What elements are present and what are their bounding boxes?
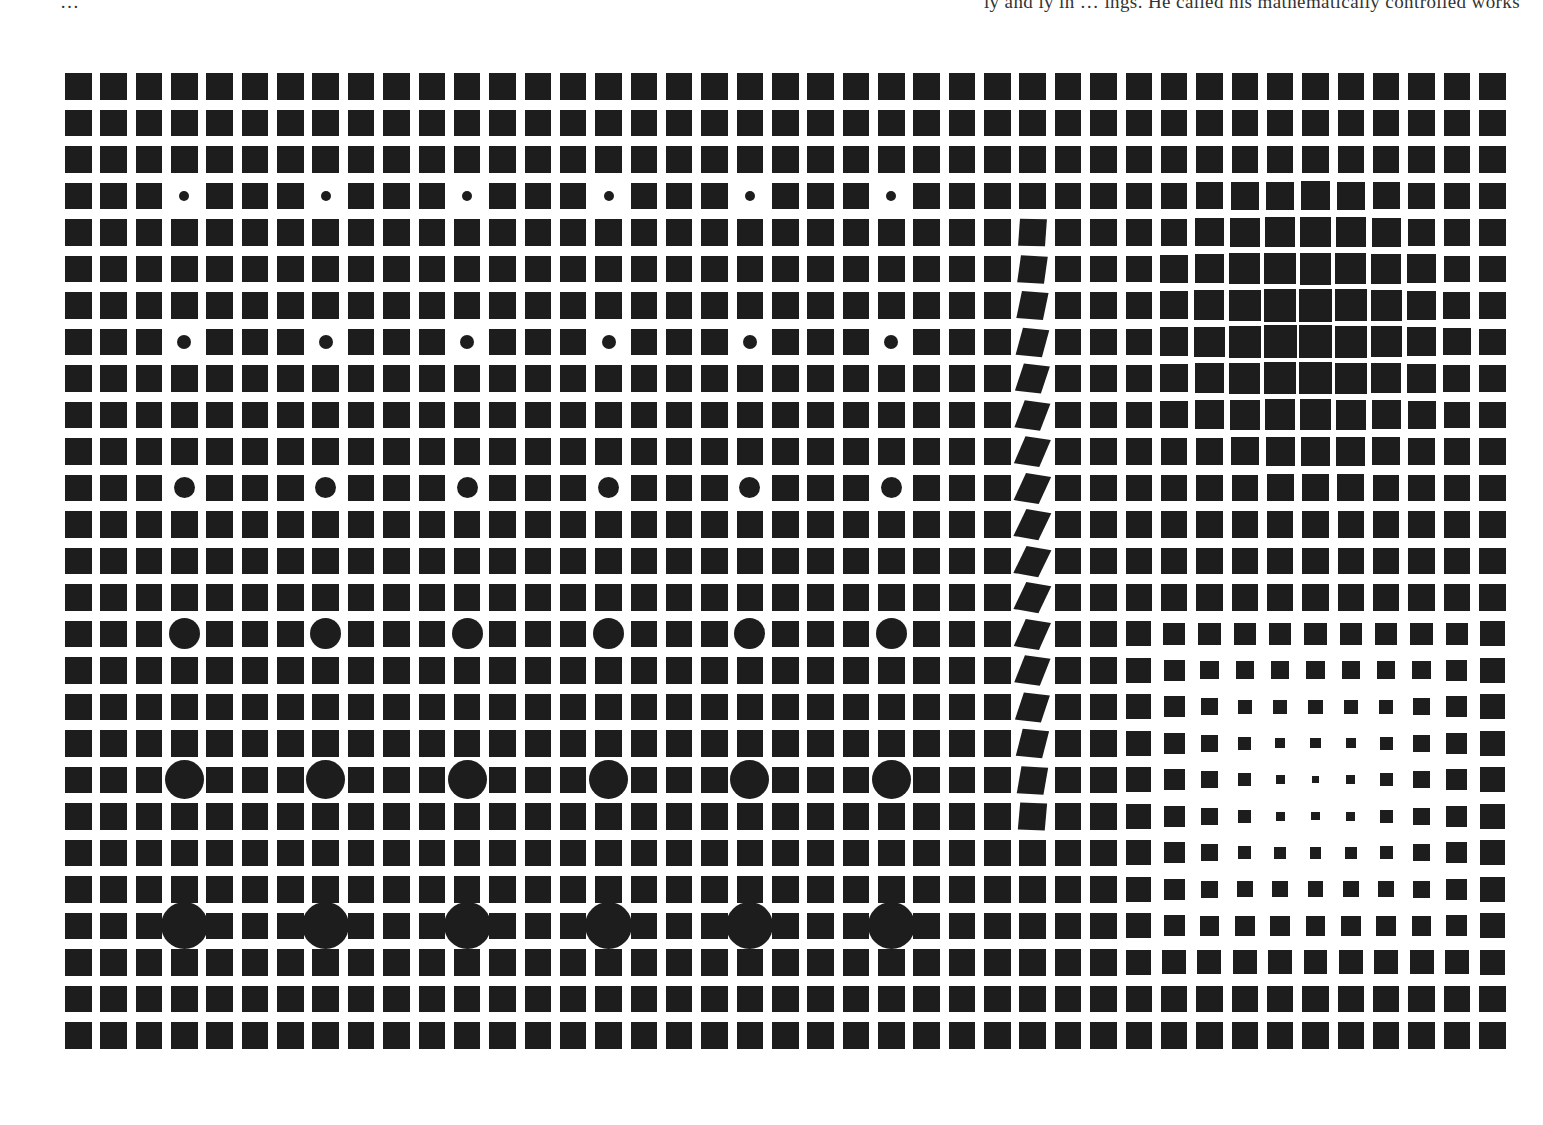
grid-square [1275, 738, 1285, 748]
grid-square [65, 986, 92, 1013]
grid-square [348, 840, 375, 867]
grid-square [65, 110, 92, 137]
grid-square [737, 803, 764, 830]
grid-square [1268, 950, 1292, 974]
grid-square [1164, 879, 1185, 900]
grid-square [100, 475, 127, 502]
grid-square [1126, 475, 1153, 502]
grid-square [171, 840, 198, 867]
grid-square [772, 292, 799, 319]
grid-square [65, 694, 92, 721]
grid-square [913, 876, 940, 903]
grid-square [489, 365, 516, 392]
grid-square [1195, 218, 1223, 246]
grid-square [489, 730, 516, 757]
grid-square [878, 986, 905, 1013]
grid-square [312, 840, 339, 867]
grid-square [348, 876, 375, 903]
grid-square [1090, 657, 1117, 684]
grid-square [984, 256, 1011, 283]
grid-square [1266, 182, 1294, 210]
grid-square [560, 110, 587, 137]
grid-square [913, 840, 940, 867]
grid-square [383, 803, 410, 830]
grid-square [1479, 183, 1506, 210]
grid-square [1408, 401, 1436, 429]
grid-square [595, 840, 622, 867]
grid-square [242, 219, 269, 246]
grid-circle [315, 477, 336, 498]
grid-square [737, 110, 764, 137]
grid-square [1264, 325, 1297, 358]
grid-square [843, 986, 870, 1013]
grid-square [419, 256, 446, 283]
grid-square [1161, 110, 1188, 137]
grid-square [1413, 881, 1430, 898]
grid-square [100, 438, 127, 465]
grid-circle [165, 760, 204, 799]
grid-square [631, 365, 658, 392]
grid-square [206, 402, 233, 429]
grid-square [772, 219, 799, 246]
grid-square [807, 329, 834, 356]
grid-square [100, 511, 127, 538]
grid-square [171, 548, 198, 575]
grid-square [206, 292, 233, 319]
grid-square [348, 146, 375, 173]
grid-square [1196, 73, 1223, 100]
grid-square [383, 730, 410, 757]
grid-square [136, 365, 163, 392]
grid-square [631, 767, 658, 794]
grid-square [772, 913, 799, 940]
grid-square [383, 949, 410, 976]
grid-square [807, 402, 834, 429]
grid-square [595, 292, 622, 319]
grid-square [312, 548, 339, 575]
grid-square [913, 803, 940, 830]
grid-square [525, 730, 552, 757]
grid-circle [457, 477, 478, 498]
grid-square [242, 256, 269, 283]
grid-square [1055, 730, 1082, 757]
grid-square [525, 986, 552, 1013]
grid-square [348, 767, 375, 794]
grid-square [949, 657, 976, 684]
grid-square [1126, 767, 1151, 792]
grid-square [1346, 812, 1355, 821]
grid-square [1126, 146, 1153, 173]
grid-square [843, 256, 870, 283]
grid-square [1055, 913, 1082, 940]
grid-square [383, 621, 410, 648]
grid-square [913, 548, 940, 575]
grid-square [383, 219, 410, 246]
grid-square [1336, 437, 1365, 466]
grid-square [525, 365, 552, 392]
grid-square [1338, 986, 1365, 1013]
grid-square [1376, 916, 1396, 936]
grid-square [560, 292, 587, 319]
grid-square [1378, 881, 1394, 897]
grid-square [489, 219, 516, 246]
grid-square [1479, 584, 1506, 611]
grid-square [1161, 548, 1188, 575]
grid-square [312, 73, 339, 100]
grid-square [1090, 767, 1117, 794]
grid-square [489, 949, 516, 976]
grid-square [949, 292, 976, 319]
grid-square [878, 402, 905, 429]
grid-square [595, 365, 622, 392]
grid-square [843, 803, 870, 830]
grid-square [100, 548, 127, 575]
grid-skewed-square [1015, 655, 1051, 685]
grid-square [348, 913, 375, 940]
grid-square [701, 146, 728, 173]
grid-square [560, 438, 587, 465]
grid-square [631, 475, 658, 502]
grid-square [1055, 767, 1082, 794]
grid-square [878, 365, 905, 392]
grid-square [242, 949, 269, 976]
grid-square [772, 438, 799, 465]
grid-square [1380, 773, 1393, 786]
grid-square [949, 621, 976, 648]
grid-square [666, 183, 693, 210]
